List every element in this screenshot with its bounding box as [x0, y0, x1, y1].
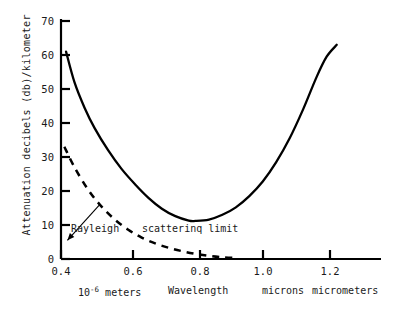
footer-label-microns: microns	[262, 285, 304, 296]
series-rayleigh-limit-curve	[64, 147, 235, 258]
attenuation-chart-figure: Attenuation decibels (db)/kilometer 70 6…	[0, 0, 393, 311]
annotation-rayleigh: Rayleigh	[71, 223, 119, 234]
footer-meters-base: 10	[78, 287, 90, 298]
footer-meters-exponent: -6	[90, 285, 99, 294]
plot-area	[0, 0, 393, 311]
annotation-scattering-limit: scatterinq limit	[142, 223, 238, 234]
footer-label-meters: 10-6 meters	[78, 285, 141, 298]
y-axis-ticks	[61, 21, 70, 259]
x-axis-ticks	[61, 250, 330, 259]
footer-label-wavelength: Wavelength	[168, 285, 228, 296]
footer-label-micrometers: micrometers	[312, 285, 378, 296]
footer-meters-unit: meters	[105, 287, 141, 298]
series-total-attenuation-curve	[66, 45, 337, 221]
